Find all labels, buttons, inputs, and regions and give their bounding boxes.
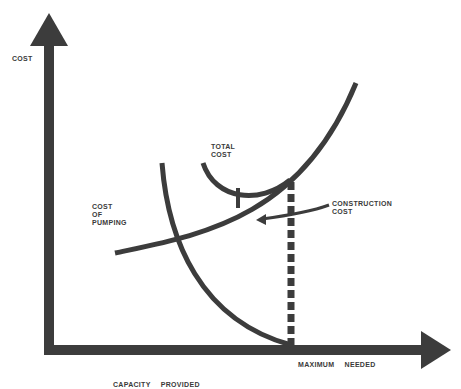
cost-of-pumping-label: COST OF PUMPING xyxy=(92,203,127,227)
y-axis xyxy=(30,13,68,354)
cost-capacity-diagram xyxy=(0,0,461,389)
x-axis-label: CAPACITY PROVIDED xyxy=(113,381,200,389)
y-axis-label: COST xyxy=(12,55,33,63)
maximum-needed-label: MAXIMUM NEEDED xyxy=(298,361,376,369)
total-cost-minimum-tick xyxy=(236,188,240,208)
total-cost-label: TOTAL COST xyxy=(211,143,235,159)
construction-cost-curve xyxy=(115,83,356,253)
pointer-arrowhead-icon xyxy=(256,214,266,225)
total-cost-curve xyxy=(203,163,290,195)
x-axis-arrowhead-icon xyxy=(421,331,451,369)
construction-cost-label: CONSTRUCTION COST xyxy=(332,200,392,216)
y-axis-arrowhead-icon xyxy=(30,13,68,46)
construction-cost-pointer xyxy=(262,205,329,219)
x-axis xyxy=(44,331,451,369)
